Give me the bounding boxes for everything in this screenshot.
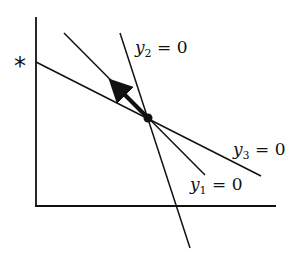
label-y3: y3 = 0 <box>232 139 285 162</box>
diagram-canvas: * y2 = 0 y3 = 0 y1 = 0 <box>0 0 296 259</box>
label-y1: y1 = 0 <box>189 174 242 197</box>
line-y2 <box>120 33 190 248</box>
label-y2: y2 = 0 <box>134 37 187 60</box>
asterisk-marker: * <box>14 52 26 80</box>
intersection-point <box>144 114 153 123</box>
